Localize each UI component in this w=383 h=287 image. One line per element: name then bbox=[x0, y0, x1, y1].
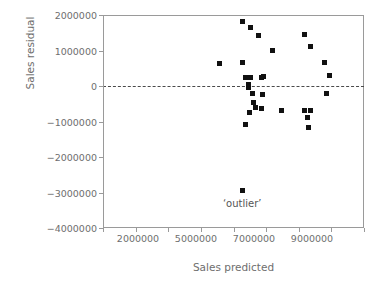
y-tick-label: −1000000 bbox=[47, 116, 97, 127]
y-tick bbox=[99, 157, 104, 158]
data-point bbox=[322, 60, 327, 65]
y-tick bbox=[99, 51, 104, 52]
y-tick-label: 1000000 bbox=[55, 45, 97, 56]
x-tick bbox=[266, 228, 267, 232]
x-tick bbox=[201, 228, 202, 232]
data-point bbox=[240, 60, 245, 65]
x-tick bbox=[299, 228, 300, 232]
data-point bbox=[250, 91, 255, 96]
data-point bbox=[240, 19, 245, 24]
x-tick bbox=[103, 228, 104, 232]
data-point bbox=[261, 74, 266, 79]
data-point bbox=[243, 122, 248, 127]
x-tick bbox=[331, 228, 332, 232]
zero-reference-line bbox=[103, 86, 364, 87]
y-tick-label: 2000000 bbox=[55, 10, 97, 21]
y-tick-label: −2000000 bbox=[47, 152, 97, 163]
data-point bbox=[217, 61, 222, 66]
x-tick bbox=[168, 228, 169, 232]
y-tick bbox=[99, 15, 104, 16]
x-tick-label: 9000000 bbox=[291, 233, 333, 244]
data-point bbox=[260, 92, 265, 97]
data-point bbox=[248, 25, 253, 30]
data-point bbox=[248, 75, 253, 80]
data-point bbox=[306, 125, 311, 130]
x-axis-title: Sales predicted bbox=[103, 261, 364, 273]
data-point bbox=[270, 48, 275, 53]
data-point bbox=[279, 108, 284, 113]
x-tick bbox=[234, 228, 235, 232]
x-tick bbox=[136, 228, 137, 232]
data-point bbox=[324, 91, 329, 96]
data-point bbox=[247, 110, 252, 115]
y-tick-label: −3000000 bbox=[47, 187, 97, 198]
y-tick bbox=[99, 122, 104, 123]
x-tick-label: 5000000 bbox=[175, 233, 217, 244]
data-point bbox=[246, 85, 251, 90]
data-point bbox=[240, 188, 245, 193]
data-point bbox=[305, 115, 310, 120]
y-tick bbox=[99, 193, 104, 194]
x-tick bbox=[364, 228, 365, 232]
data-point bbox=[253, 105, 258, 110]
data-point bbox=[302, 108, 307, 113]
data-point bbox=[308, 108, 313, 113]
data-point bbox=[256, 33, 261, 38]
data-point bbox=[243, 75, 248, 80]
scatter-plot-figure: 200000010000000−1000000−2000000−3000000−… bbox=[0, 0, 383, 287]
y-tick bbox=[99, 86, 104, 87]
x-tick-label: 7000000 bbox=[233, 233, 275, 244]
y-tick-label: −4000000 bbox=[47, 223, 97, 234]
x-tick-label: 2000000 bbox=[117, 233, 159, 244]
data-point bbox=[327, 73, 332, 78]
data-point bbox=[302, 32, 307, 37]
data-point bbox=[259, 106, 264, 111]
plot-area bbox=[103, 15, 364, 228]
y-tick-label: 0 bbox=[91, 81, 97, 92]
data-point bbox=[308, 44, 313, 49]
y-axis-title: Sales residual bbox=[24, 0, 36, 133]
outlier-annotation-label: ‘outlier’ bbox=[223, 198, 262, 209]
